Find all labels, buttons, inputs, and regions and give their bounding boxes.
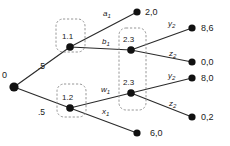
terminal-payoff-t3: 0,0 <box>201 58 214 67</box>
action-label-w1: w1 <box>101 86 110 94</box>
action-label-z2-upper: z2 <box>169 50 176 58</box>
action-label-z2-lower: z2 <box>169 100 176 108</box>
action-label-b1: b1 <box>102 38 110 46</box>
decision-node-2.3-lower[interactable] <box>127 89 135 97</box>
tree-canvas <box>0 0 230 146</box>
tree-edge-node-2-3-lower-action-z2 <box>131 93 192 117</box>
action-label-a1: a1 <box>103 10 111 18</box>
decision-node-1.2[interactable] <box>66 104 74 112</box>
terminal-node-t2[interactable] <box>188 24 195 31</box>
tree-edge-node-1-2-action-w1 <box>70 93 131 108</box>
decision-node-label-2.3-lower: 2.3 <box>123 79 134 87</box>
chance-probability-1: .5 <box>38 62 45 71</box>
terminal-payoff-t2: 8,6 <box>201 24 214 33</box>
chance-node-root[interactable] <box>9 82 18 91</box>
action-label-x1: x1 <box>102 108 109 116</box>
terminal-payoff-t1: 2,0 <box>145 8 158 17</box>
decision-node-label-1.2: 1.2 <box>62 94 73 102</box>
decision-node-label-1.1: 1.1 <box>62 33 73 41</box>
chance-node-root-label: 0 <box>2 71 7 80</box>
terminal-node-t4[interactable] <box>188 74 195 81</box>
chance-probability-2: .5 <box>38 108 45 117</box>
tree-edge-node-2-3-upper-action-y2 <box>131 28 192 50</box>
decision-node-2.3-upper[interactable] <box>127 46 135 54</box>
terminal-node-t1[interactable] <box>133 8 140 15</box>
decision-node-1.1[interactable] <box>66 43 74 51</box>
terminal-payoff-t6: 6,0 <box>150 129 163 138</box>
tree-edge-node-2-3-lower-action-y2 <box>131 78 192 93</box>
terminal-payoff-t5: 0,2 <box>201 113 214 122</box>
action-label-y2-upper: y2 <box>168 20 175 28</box>
terminal-node-t3[interactable] <box>188 58 195 65</box>
decision-node-label-2.3-upper: 2.3 <box>123 36 134 44</box>
terminal-node-t6[interactable] <box>133 129 140 136</box>
terminal-payoff-t4: 8,0 <box>201 74 214 83</box>
tree-edge-node-1-1-action-b1 <box>70 47 131 50</box>
tree-edge-node-2-3-upper-action-z2 <box>131 50 192 62</box>
terminal-node-t5[interactable] <box>188 113 195 120</box>
game-tree-diagram: 0.5.51.11.22.32.3a1b1w1x1y2z2y2z22,08,60… <box>0 0 230 146</box>
action-label-y2-lower: y2 <box>168 72 175 80</box>
